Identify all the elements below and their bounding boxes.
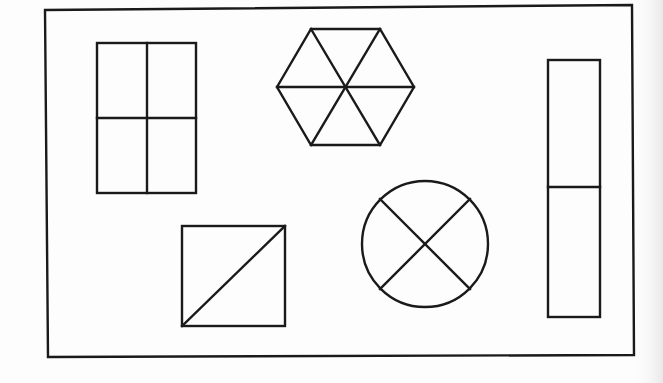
outer-frame xyxy=(45,5,634,357)
square-diagonal-divider xyxy=(182,226,285,326)
hexagon xyxy=(277,29,414,145)
window-rectangle xyxy=(97,43,196,193)
shapes-diagram xyxy=(0,0,663,383)
tall-rectangle xyxy=(548,60,600,317)
tall-rectangle-outline xyxy=(548,60,600,317)
shapes-group xyxy=(97,29,600,326)
diagram-canvas xyxy=(0,0,663,383)
square-diagonal xyxy=(182,226,285,326)
circle-x xyxy=(362,181,488,307)
